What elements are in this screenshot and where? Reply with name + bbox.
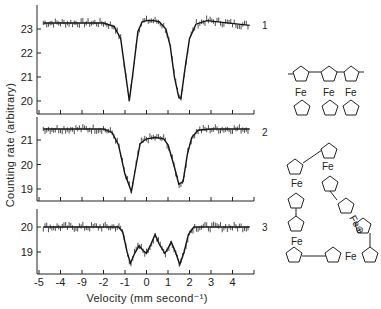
fe-label: Fe xyxy=(295,87,307,98)
y-axis-title: Counting rate (arbitrary) xyxy=(4,83,16,207)
fe-label: Fe xyxy=(322,161,334,172)
spectrum-panel-2: 1920212 xyxy=(21,117,268,201)
fit-curve xyxy=(43,227,249,265)
x-tick-label: -5 xyxy=(34,276,44,288)
panel-number-label: 2 xyxy=(262,127,268,138)
x-tick-labels: -5-4-9-2-101234 xyxy=(34,276,235,288)
y-tick-label: 21 xyxy=(21,134,33,146)
x-tick-label: 4 xyxy=(229,276,235,288)
x-tick-label: -1 xyxy=(120,276,130,288)
mossbauer-figure: 202122231192021219203-5-4-9-2-101234 Cou… xyxy=(0,0,381,309)
fit-curve xyxy=(43,21,249,101)
x-axis-title: Velocity (mm second⁻¹) xyxy=(86,292,207,304)
x-tick-label: 2 xyxy=(186,276,192,288)
y-tick-label: 20 xyxy=(21,95,33,107)
y-tick-label: 20 xyxy=(21,221,33,233)
panel-number-label: 1 xyxy=(262,20,268,31)
spectrum-panel-3: 19203 xyxy=(21,209,268,274)
fe-label: Fe xyxy=(323,87,335,98)
x-tick-label: -2 xyxy=(99,276,109,288)
y-tick-label: 19 xyxy=(21,246,33,258)
x-tick-label: 1 xyxy=(165,276,171,288)
y-tick-label: 19 xyxy=(21,183,33,195)
x-tick-label: 0 xyxy=(143,276,149,288)
fe-label: Fe xyxy=(345,251,357,262)
y-tick-label: 22 xyxy=(21,47,33,59)
y-tick-label: 23 xyxy=(21,23,33,35)
y-tick-label: 21 xyxy=(21,71,33,83)
fe-label: Fe xyxy=(291,236,303,247)
spectrum-panel-1: 202122231 xyxy=(21,5,268,114)
cyclic-ferrocene-structure: Fe Fe Fe⊕ Fe Fe xyxy=(286,143,378,262)
x-tick-label: -9 xyxy=(77,276,87,288)
spectra-plots: 202122231192021219203-5-4-9-2-101234 xyxy=(21,5,268,288)
x-tick-label: 3 xyxy=(208,276,214,288)
fe-label: Fe xyxy=(345,87,357,98)
x-tick-label: -4 xyxy=(56,276,66,288)
fe-label: Fe xyxy=(291,178,303,189)
y-tick-label: 20 xyxy=(21,159,33,171)
panel-number-label: 3 xyxy=(262,222,268,233)
linear-ferrocene-structure: Fe Fe Fe xyxy=(288,66,364,115)
